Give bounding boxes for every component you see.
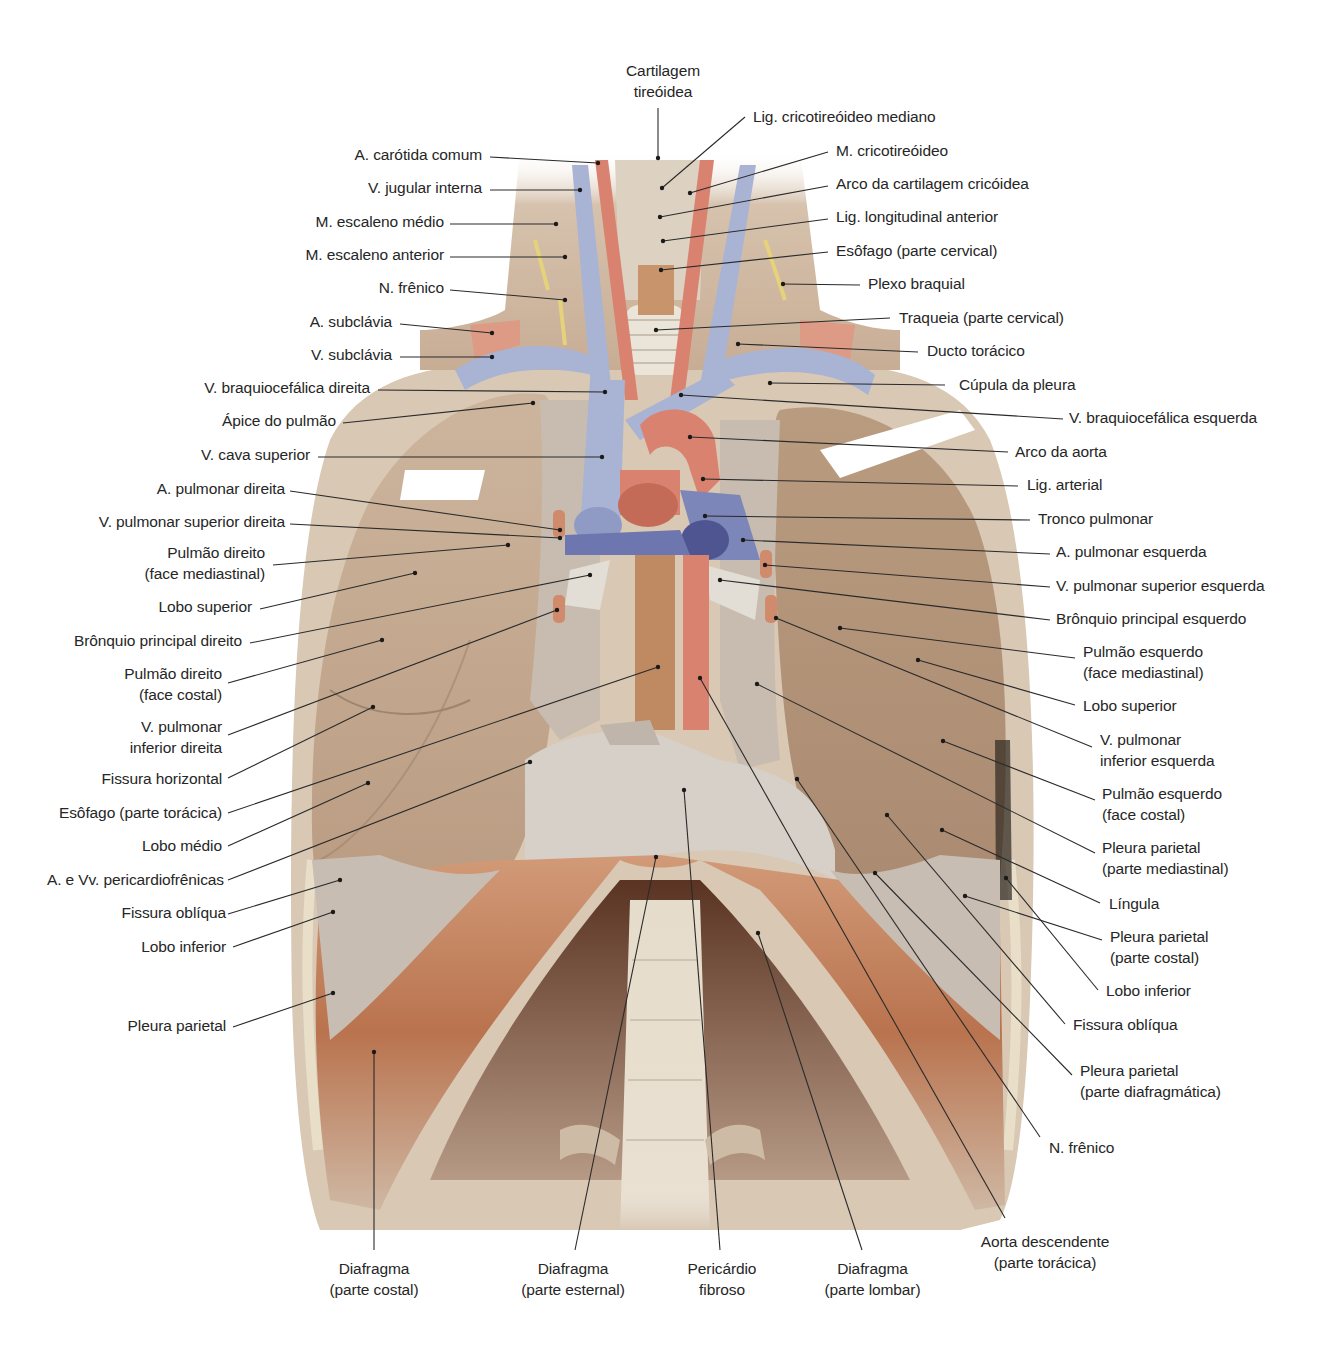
label-arco-da-aorta: Arco da aorta (1015, 441, 1107, 462)
label-fissura-obliqua-direita: Fissura oblíqua (122, 902, 226, 923)
label-ducto-toracico: Ducto torácico (927, 340, 1025, 361)
label-v-subclavia: V. subclávia (311, 344, 392, 365)
label-pleura-parietal-mediastinal: Pleura parietal(parte mediastinal) (1102, 837, 1228, 879)
label-n-frenico-left: N. frênico (379, 277, 444, 298)
label-pericardio-fibroso: Pericárdiofibroso (662, 1258, 782, 1300)
label-lig-longitudinal-anterior: Lig. longitudinal anterior (836, 206, 998, 227)
label-fissura-obliqua-esquerda: Fissura oblíqua (1073, 1014, 1177, 1035)
label-m-cricotireoideo: M. cricotireóideo (836, 140, 948, 161)
label-esofago-parte-toracica: Esôfago (parte torácica) (59, 802, 222, 823)
label-a-carotida-comum: A. carótida comum (354, 144, 482, 165)
label-v-braquiocefalica-esquerda: V. braquiocefálica esquerda (1069, 407, 1257, 428)
label-lingula: Língula (1109, 893, 1159, 914)
label-diafragma-parte-esternal: Diafragma(parte esternal) (498, 1258, 648, 1300)
label-m-escaleno-medio: M. escaleno médio (316, 211, 444, 232)
label-diafragma-parte-costal: Diafragma(parte costal) (304, 1258, 444, 1300)
label-lobo-superior-direito: Lobo superior (159, 596, 253, 617)
label-pulmao-esquerdo-face-costal: Pulmão esquerdo(face costal) (1102, 783, 1222, 825)
label-tronco-pulmonar: Tronco pulmonar (1038, 508, 1153, 529)
label-fissura-horizontal: Fissura horizontal (101, 768, 222, 789)
label-traqueia-parte-cervical: Traqueia (parte cervical) (899, 307, 1064, 328)
label-bronquio-principal-direito: Brônquio principal direito (74, 630, 242, 651)
label-plexo-braquial: Plexo braquial (868, 273, 965, 294)
neck-region (420, 150, 900, 375)
label-lig-arterial: Lig. arterial (1027, 474, 1102, 495)
label-cartilagem-tireoidea: Cartilagem tireóidea (608, 60, 718, 102)
label-lobo-superior-esquerdo: Lobo superior (1083, 695, 1177, 716)
label-v-braquiocefalica-direita: V. braquiocefálica direita (204, 377, 370, 398)
anatomy-diagram: Cartilagem tireóidea A. carótida comum V… (0, 0, 1320, 1351)
label-v-pulmonar-superior-esquerda: V. pulmonar superior esquerda (1056, 575, 1265, 596)
label-diafragma-parte-lombar: Diafragma(parte lombar) (800, 1258, 945, 1300)
label-line: Cartilagem (608, 60, 718, 81)
label-lobo-inferior-esquerdo: Lobo inferior (1106, 980, 1191, 1001)
label-pleura-parietal-costal: Pleura parietal(parte costal) (1110, 926, 1208, 968)
label-a-subclavia: A. subclávia (310, 311, 392, 332)
label-pleura-parietal-diafragmatica: Pleura parietal(parte diafragmática) (1080, 1060, 1221, 1102)
label-line: tireóidea (608, 81, 718, 102)
label-v-jugular-interna: V. jugular interna (368, 177, 482, 198)
label-lobo-inferior-direito: Lobo inferior (141, 936, 226, 957)
label-a-e-vv-pericardiofrenicas: A. e Vv. pericardiofrênicas (47, 869, 224, 890)
label-v-cava-superior: V. cava superior (201, 444, 310, 465)
label-m-escaleno-anterior: M. escaleno anterior (306, 244, 444, 265)
label-v-pulmonar-superior-direita: V. pulmonar superior direita (99, 511, 285, 532)
label-apice-do-pulmao: Ápice do pulmão (222, 410, 336, 431)
label-bronquio-principal-esquerdo: Brônquio principal esquerdo (1056, 608, 1246, 629)
label-a-pulmonar-esquerda: A. pulmonar esquerda (1056, 541, 1207, 562)
label-aorta-descendente-parte-toracica: Aorta descendente(parte torácica) (960, 1231, 1130, 1273)
label-arco-cartilagem-cricoidea: Arco da cartilagem cricóidea (836, 173, 1029, 194)
label-cupula-da-pleura: Cúpula da pleura (959, 374, 1075, 395)
label-pleura-parietal-direita: Pleura parietal (128, 1015, 226, 1036)
label-pulmao-direito-face-costal: Pulmão direito(face costal) (124, 663, 222, 705)
label-esofago-parte-cervical: Esôfago (parte cervical) (836, 240, 997, 261)
label-a-pulmonar-direita: A. pulmonar direita (157, 478, 285, 499)
label-lig-cricotireoideo-mediano: Lig. cricotireóideo mediano (753, 106, 936, 127)
label-v-pulmonar-inferior-esquerda: V. pulmonarinferior esquerda (1100, 729, 1215, 771)
label-lobo-medio: Lobo médio (142, 835, 222, 856)
label-n-frenico-right: N. frênico (1049, 1137, 1114, 1158)
label-v-pulmonar-inferior-direita: V. pulmonarinferior direita (130, 716, 222, 758)
label-pulmao-esquerdo-face-mediastinal: Pulmão esquerdo(face mediastinal) (1083, 641, 1204, 683)
label-pulmao-direito-face-mediastinal: Pulmão direito(face mediastinal) (144, 542, 265, 584)
